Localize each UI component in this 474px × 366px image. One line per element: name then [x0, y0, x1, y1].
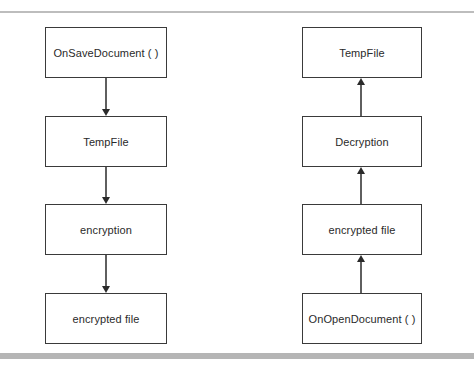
bottom-divider	[0, 353, 474, 359]
node-temp-file-save: TempFile	[45, 116, 167, 167]
node-label: OnOpenDocument ( )	[309, 313, 416, 325]
node-temp-file-open: TempFile	[302, 27, 422, 78]
node-label: TempFile	[83, 136, 128, 148]
arrow-up-icon	[357, 78, 365, 116]
node-label: Decryption	[335, 136, 389, 148]
arrow-down-icon	[102, 78, 110, 116]
node-label: encrypted file	[329, 224, 396, 236]
top-divider	[0, 11, 474, 13]
node-encrypted-file-save: encrypted file	[45, 293, 167, 344]
node-label: OnSaveDocument ( )	[53, 47, 158, 59]
arrow-up-icon	[357, 167, 365, 204]
node-label: encryption	[80, 224, 132, 236]
node-on-save-document: OnSaveDocument ( )	[45, 27, 167, 78]
arrow-down-icon	[102, 255, 110, 293]
node-on-open-document: OnOpenDocument ( )	[302, 293, 422, 344]
node-decryption: Decryption	[302, 116, 422, 167]
node-label: TempFile	[339, 47, 384, 59]
arrow-up-icon	[357, 255, 365, 293]
node-encryption: encryption	[45, 204, 167, 255]
node-encrypted-file-open: encrypted file	[302, 204, 422, 255]
arrow-down-icon	[102, 167, 110, 204]
node-label: encrypted file	[73, 313, 140, 325]
